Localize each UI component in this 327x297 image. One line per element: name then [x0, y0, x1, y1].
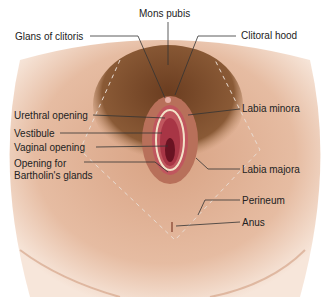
label-perineum: Perineum [242, 195, 285, 206]
label-opening-for-bartholins-line2: Bartholin's glands [14, 170, 93, 181]
label-vaginal-opening: Vaginal opening [14, 142, 85, 153]
label-mons-pubis: Mons pubis [139, 8, 190, 19]
label-opening-for-bartholins-line1: Opening for [14, 158, 66, 169]
label-vestibule: Vestibule [14, 128, 55, 139]
label-anus: Anus [242, 217, 265, 228]
label-glans-of-clitoris: Glans of clitoris [15, 31, 83, 42]
label-urethral-opening: Urethral opening [14, 110, 88, 121]
label-labia-majora: Labia majora [242, 164, 300, 175]
label-labia-minora: Labia minora [242, 103, 300, 114]
female-external-anatomy-diagram: Mons pubis Glans of clitoris Clitoral ho… [0, 0, 327, 297]
label-clitoral-hood: Clitoral hood [241, 30, 297, 41]
